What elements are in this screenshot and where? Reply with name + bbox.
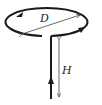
diameter-dimension-line (22, 15, 80, 34)
loop-diagram: D H (0, 0, 102, 105)
height-label: H (61, 64, 72, 77)
wire-current-arrow-up-icon (48, 76, 54, 84)
diameter-label: D (39, 12, 49, 25)
